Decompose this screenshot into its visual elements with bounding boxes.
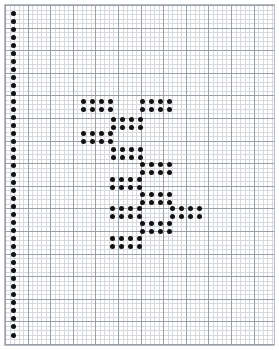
graph-paper-grid bbox=[4, 4, 275, 346]
screenshot-canvas bbox=[0, 0, 279, 350]
